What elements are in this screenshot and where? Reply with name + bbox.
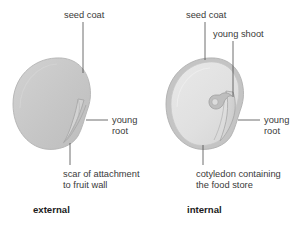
label-cotyledon-line1: cotyledon containing	[196, 169, 281, 179]
diagram-canvas: seed coat young root scar of attachment …	[0, 0, 304, 225]
young-shoot-tip-internal	[212, 99, 218, 106]
seed-external-body	[13, 58, 90, 150]
label-cotyledon-line2: the food store	[196, 180, 253, 190]
seed-structure-diagram: seed coat young root scar of attachment …	[0, 0, 304, 225]
label-young-root-internal-line2: root	[264, 126, 280, 136]
panel-internal: seed coat young shoot young root cotyled…	[166, 10, 289, 215]
label-young-root-external-line2: root	[112, 126, 128, 136]
label-young-shoot-internal: young shoot	[213, 29, 264, 39]
caption-external: external	[33, 204, 70, 215]
label-scar-line1: scar of attachment	[63, 169, 140, 179]
label-seed-coat-external: seed coat	[64, 10, 105, 20]
caption-internal: internal	[187, 204, 222, 215]
label-scar-line2: to fruit wall	[63, 180, 107, 190]
seed-internal-body	[166, 58, 243, 150]
label-young-root-internal-line1: young	[264, 115, 289, 125]
label-young-root-external-line1: young	[112, 115, 137, 125]
panel-external: seed coat young root scar of attachment …	[13, 10, 140, 215]
label-seed-coat-internal: seed coat	[186, 10, 227, 20]
